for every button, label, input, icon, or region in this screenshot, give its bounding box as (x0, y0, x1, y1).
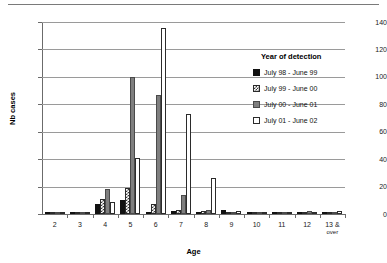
y-tick-label: 40 (351, 156, 387, 163)
x-tick-label: 5 (118, 221, 143, 229)
y-tick-label: 0 (351, 211, 387, 218)
gridline (42, 159, 345, 160)
y-tick-mark (38, 214, 42, 215)
x-tick-label: 13 &over (320, 221, 345, 236)
x-tick-label: 2 (42, 221, 67, 229)
legend-item-label: July 01 - June 02 (264, 117, 317, 124)
legend-item: July 00 - June 01 (253, 101, 381, 108)
legend-item-label: July 00 - June 01 (264, 101, 317, 108)
x-tick-mark (219, 215, 220, 218)
legend: Year of detection July 98 - June 99July … (253, 52, 381, 133)
x-tick-label: 10 (244, 221, 269, 229)
bar (110, 202, 115, 214)
x-tick-mark (345, 215, 346, 218)
gridline (42, 22, 345, 23)
x-tick-label: 8 (194, 221, 219, 229)
top-divider (8, 4, 379, 5)
legend-title: Year of detection (253, 52, 381, 61)
legend-swatch-icon (253, 85, 260, 92)
x-tick-label: 9 (219, 221, 244, 229)
bar (312, 212, 317, 214)
legend-swatch-icon (253, 69, 260, 76)
x-tick-mark (143, 215, 144, 218)
legend-item-label: July 99 - June 00 (264, 85, 317, 92)
y-tick-mark (38, 77, 42, 78)
legend-item: July 01 - June 02 (253, 117, 381, 124)
x-axis-title: Age (0, 247, 387, 256)
x-tick-label: 11 (269, 221, 294, 229)
bar (262, 212, 267, 214)
bar (60, 212, 65, 214)
x-tick-mark (93, 215, 94, 218)
legend-item: July 98 - June 99 (253, 69, 381, 76)
x-tick-mark (244, 215, 245, 218)
legend-item-label: July 98 - June 99 (264, 69, 317, 76)
bar (236, 211, 241, 214)
x-tick-mark (320, 215, 321, 218)
y-tick-mark (38, 104, 42, 105)
y-tick-mark (38, 159, 42, 160)
bar (211, 178, 216, 214)
legend-swatch-icon (253, 101, 260, 108)
x-tick-mark (295, 215, 296, 218)
x-tick-label: 3 (67, 221, 92, 229)
bar-chart: 020406080100120140 2345678910111213 &ove… (0, 0, 387, 263)
bar (186, 114, 191, 214)
x-tick-label: 12 (295, 221, 320, 229)
bar (135, 158, 140, 214)
x-tick-mark (194, 215, 195, 218)
y-tick-mark (38, 132, 42, 133)
y-tick-mark (38, 49, 42, 50)
x-tick-label: 4 (93, 221, 118, 229)
legend-item: July 99 - June 00 (253, 85, 381, 92)
y-axis-title: Nb cases (8, 79, 17, 139)
x-tick-mark (67, 215, 68, 218)
x-tick-mark (168, 215, 169, 218)
x-tick-label: 6 (143, 221, 168, 229)
y-tick-label: 20 (351, 183, 387, 190)
x-tick-label: 7 (168, 221, 193, 229)
bar (287, 212, 292, 214)
y-tick-mark (38, 187, 42, 188)
bar (85, 212, 90, 214)
y-tick-mark (38, 22, 42, 23)
x-tick-mark (118, 215, 119, 218)
bar (161, 28, 166, 215)
x-tick-label-sub: over (320, 229, 345, 236)
gridline (42, 187, 345, 188)
bar (337, 211, 342, 214)
gridline (42, 49, 345, 50)
y-tick-label: 140 (351, 19, 387, 26)
x-tick-mark (269, 215, 270, 218)
legend-swatch-icon (253, 117, 260, 124)
legend-items: July 98 - June 99July 99 - June 00July 0… (253, 69, 381, 124)
